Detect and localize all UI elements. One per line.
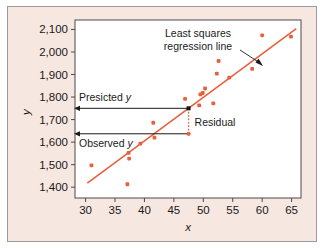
x-tick-label: 35 xyxy=(109,204,122,216)
data-point xyxy=(215,72,219,76)
scatter-chart: 1,4001,5001,6001,7001,8001,9002,0002,100… xyxy=(8,7,316,241)
data-point xyxy=(125,182,129,186)
predicted-y-label: Presicted y xyxy=(79,91,132,103)
data-point xyxy=(260,33,264,37)
y-tick-label: 2,000 xyxy=(39,46,68,58)
data-point xyxy=(227,76,231,80)
observed-y-label: Observed y xyxy=(79,137,133,149)
x-tick-label: 60 xyxy=(256,204,269,216)
x-axis-title: x xyxy=(184,221,192,233)
data-point xyxy=(127,151,131,155)
data-point xyxy=(153,136,157,140)
data-point xyxy=(289,35,293,39)
x-axis-tick-labels: 3035404550556065 xyxy=(79,204,298,216)
y-tick-label: 1,600 xyxy=(39,136,68,148)
data-point xyxy=(203,87,207,91)
least-squares-label-line2: regression line xyxy=(164,40,232,52)
data-point xyxy=(90,163,94,167)
data-point xyxy=(197,103,201,107)
y-tick-label: 1,900 xyxy=(39,69,68,81)
data-point xyxy=(250,67,254,71)
data-point xyxy=(151,121,155,125)
x-tick-label: 45 xyxy=(167,204,180,216)
data-point xyxy=(138,142,142,146)
y-axis-tick-labels: 1,4001,5001,6001,7001,8001,9002,0002,100 xyxy=(39,23,68,193)
y-tick-label: 1,800 xyxy=(39,91,68,103)
data-point xyxy=(211,101,215,105)
data-point xyxy=(187,132,191,136)
data-point xyxy=(201,91,205,95)
data-point xyxy=(217,59,221,63)
x-tick-label: 40 xyxy=(138,204,151,216)
data-point xyxy=(127,157,131,161)
residual-label: Residual xyxy=(195,116,236,128)
y-tick-label: 2,100 xyxy=(39,23,68,35)
least-squares-label-line1: Least squares xyxy=(165,27,231,39)
y-axis-title: y xyxy=(20,108,32,116)
x-tick-label: 55 xyxy=(226,204,239,216)
x-tick-label: 30 xyxy=(79,204,92,216)
x-tick-label: 65 xyxy=(285,204,298,216)
figure-panel: 1,4001,5001,6001,7001,8001,9002,0002,100… xyxy=(7,6,317,242)
y-tick-label: 1,400 xyxy=(39,181,68,193)
y-tick-label: 1,500 xyxy=(39,159,68,171)
data-point xyxy=(183,97,187,101)
predicted-point-marker xyxy=(187,106,191,110)
y-tick-label: 1,700 xyxy=(39,114,68,126)
x-axis-ticks xyxy=(86,198,292,202)
x-tick-label: 50 xyxy=(197,204,210,216)
